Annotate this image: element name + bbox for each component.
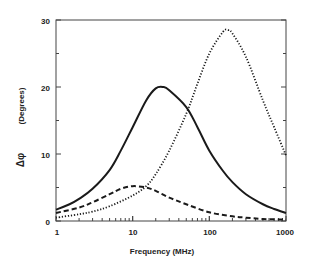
y-axis-symbol: Δφ (15, 153, 26, 167)
x-tick-10: 10 (129, 228, 138, 237)
x-tick-1: 1 (55, 228, 60, 237)
series-solid-line (56, 87, 286, 213)
y-tick-10: 10 (41, 151, 50, 160)
x-tick-100: 100 (203, 228, 217, 237)
y-tick-0: 0 (46, 218, 51, 227)
y-tick-20: 20 (41, 84, 50, 93)
x-ticks (56, 216, 286, 221)
y-axis-unit: (Degrees) (17, 87, 26, 124)
x-tick-1000: 1000 (276, 228, 294, 237)
y-tick-30: 30 (41, 17, 50, 26)
chart: 30 20 10 0 1 10 100 1000 Frequency (MHz)… (0, 0, 310, 267)
series-group (56, 30, 286, 220)
x-axis-title: Frequency (MHz) (130, 247, 195, 256)
